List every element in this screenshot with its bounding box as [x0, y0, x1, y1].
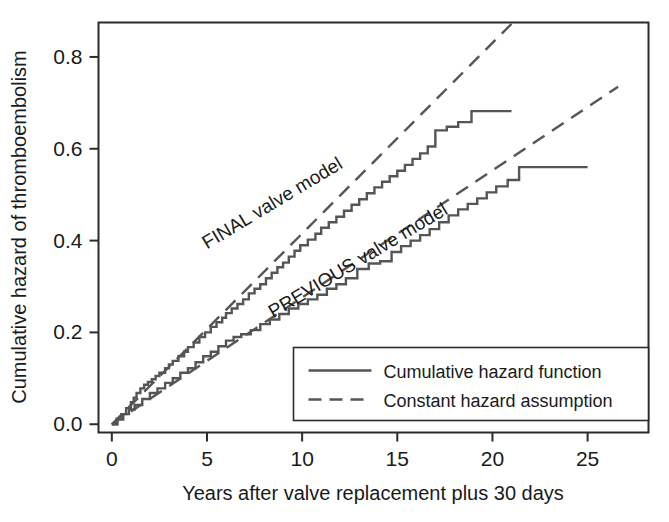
y-tick-label: 0.8 [53, 45, 82, 68]
y-tick-label: 0.6 [53, 137, 82, 160]
y-tick-label: 0.2 [53, 320, 82, 343]
cumulative-hazard-chart: 0.00.20.40.60.8 0510152025 FINAL valve m… [0, 0, 669, 522]
y-tick-label: 0.4 [53, 229, 83, 252]
x-tick-label: 20 [481, 447, 504, 470]
y-tick-label: 0.0 [53, 412, 82, 435]
x-tick-label: 25 [576, 447, 599, 470]
legend-label-constant-hazard-assumption: Constant hazard assumption [384, 391, 613, 411]
legend-label-cumulative-hazard-function: Cumulative hazard function [384, 362, 602, 382]
x-axis-title: Years after valve replacement plus 30 da… [182, 482, 564, 504]
x-tick-label: 5 [201, 447, 213, 470]
chart-figure: 0.00.20.40.60.8 0510152025 FINAL valve m… [0, 0, 669, 522]
y-axis-title: Cumulative hazard of thromboembolism [8, 50, 30, 404]
x-tick-label: 10 [290, 447, 313, 470]
chart-legend[interactable]: Cumulative hazard functionConstant hazar… [294, 348, 649, 421]
x-tick-label: 15 [386, 447, 409, 470]
x-tick-label: 0 [106, 447, 118, 470]
